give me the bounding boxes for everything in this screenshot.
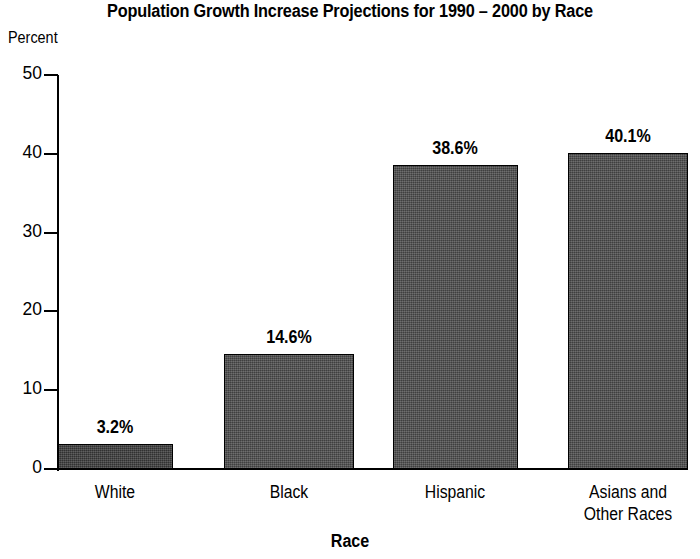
y-axis-tick-mark [44,153,58,155]
bar-value-label: 40.1% [573,126,683,147]
bar-value-label: 38.6% [400,138,510,159]
x-axis-category-label: Asians and Other Races [556,481,700,525]
x-axis-category-label: Black [217,481,361,503]
x-axis-category-label: White [43,481,187,503]
bar [393,165,518,469]
bar [58,444,173,469]
y-axis-tick-label: 40 [3,141,42,163]
y-axis-tick-mark [44,310,58,312]
y-axis-tick-label: 50 [3,62,42,84]
bar [568,153,688,469]
bar-chart: Population Growth Increase Projections f… [0,0,700,559]
bar [224,354,354,469]
bar-value-label: 14.6% [234,327,344,348]
y-axis-tick-mark [44,468,58,470]
y-axis-tick-label: 20 [3,298,42,320]
y-axis-label: Percent [8,29,58,47]
chart-title: Population Growth Increase Projections f… [25,1,676,22]
y-axis-tick-mark [44,74,58,76]
x-axis-category-label: Hispanic [383,481,527,503]
y-axis-tick-mark [44,232,58,234]
y-axis-tick-mark [44,389,58,391]
y-axis-tick-label: 0 [3,456,42,478]
x-axis-title: Race [28,531,672,552]
y-axis-tick-label: 10 [3,377,42,399]
bar-value-label: 3.2% [60,417,170,438]
y-axis-line [57,75,59,471]
y-axis-tick-label: 30 [3,220,42,242]
